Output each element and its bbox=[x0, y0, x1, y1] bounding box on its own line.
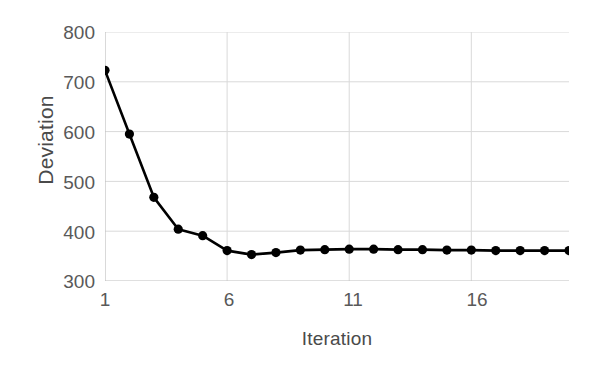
data-point bbox=[345, 245, 354, 254]
data-point bbox=[296, 246, 305, 255]
data-point bbox=[198, 231, 207, 240]
data-point bbox=[223, 246, 232, 255]
data-point bbox=[149, 193, 158, 202]
gridlines bbox=[105, 32, 569, 281]
data-point bbox=[247, 250, 256, 259]
data-point bbox=[320, 245, 329, 254]
x-axis-title: Iteration bbox=[105, 328, 569, 350]
x-tick-label-11: 11 bbox=[333, 290, 373, 309]
y-tick-label-700: 700 bbox=[43, 73, 95, 92]
plot-area bbox=[105, 32, 569, 281]
x-tick-label-16: 16 bbox=[457, 290, 497, 309]
data-point bbox=[271, 248, 280, 257]
data-point bbox=[564, 246, 569, 255]
data-point bbox=[393, 245, 402, 254]
y-tick-label-800: 800 bbox=[43, 23, 95, 42]
series-markers-deviation bbox=[105, 66, 569, 259]
x-tick-label-1: 1 bbox=[85, 290, 125, 309]
y-tick-label-600: 600 bbox=[43, 123, 95, 142]
data-point bbox=[369, 245, 378, 254]
data-point bbox=[105, 66, 110, 75]
y-tick-label-500: 500 bbox=[43, 173, 95, 192]
y-tick-label-300: 300 bbox=[43, 272, 95, 291]
axis-lines bbox=[105, 32, 569, 281]
data-point bbox=[442, 246, 451, 255]
data-point bbox=[418, 245, 427, 254]
x-tick-label-6: 6 bbox=[209, 290, 249, 309]
data-point bbox=[540, 246, 549, 255]
data-point bbox=[125, 129, 134, 138]
data-point bbox=[516, 246, 525, 255]
deviation-vs-iteration-chart: Deviation 800 700 600 500 400 300 1 6 11… bbox=[0, 0, 609, 370]
data-point bbox=[491, 246, 500, 255]
plot-svg bbox=[105, 32, 569, 281]
data-point bbox=[467, 246, 476, 255]
y-tick-label-400: 400 bbox=[43, 223, 95, 242]
data-point bbox=[174, 225, 183, 234]
